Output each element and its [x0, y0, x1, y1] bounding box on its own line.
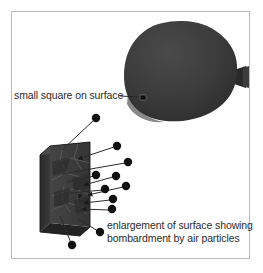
slab-side-face	[40, 146, 50, 232]
air-particle	[108, 205, 116, 213]
balloon-nozzle-highlight	[243, 66, 249, 88]
air-particle	[109, 195, 117, 203]
air-particle	[92, 171, 100, 179]
small-square-marker	[140, 95, 146, 100]
air-particle	[112, 172, 120, 180]
air-particle	[92, 114, 100, 122]
balloon-body	[124, 21, 237, 121]
figure-container: small square on surface enlargement of s…	[0, 0, 263, 273]
air-particle	[96, 228, 104, 236]
caption-line-2: bombardment by air particles	[107, 232, 253, 245]
air-particle	[101, 185, 109, 193]
caption-line-1: enlargement of surface showing	[107, 219, 253, 232]
air-particle	[68, 241, 76, 249]
balloon-group	[124, 21, 249, 122]
air-particle	[113, 142, 121, 150]
air-particle	[124, 158, 132, 166]
label-small-square-on-surface: small square on surface	[14, 89, 123, 102]
caption-enlargement: enlargement of surface showing bombardme…	[107, 219, 253, 245]
air-particle	[122, 182, 130, 190]
